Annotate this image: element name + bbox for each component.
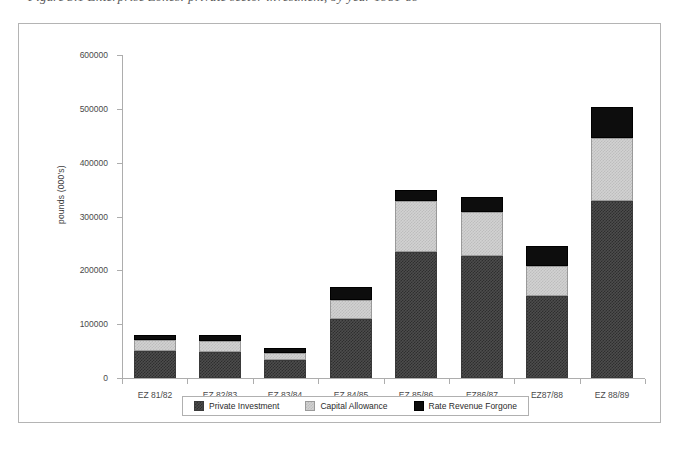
x-axis-tick	[318, 379, 319, 384]
bar-segment[interactable]	[264, 360, 306, 378]
bar-segment[interactable]	[199, 335, 241, 340]
y-axis-tick: 500000	[117, 109, 123, 110]
bar-segment[interactable]	[134, 351, 176, 378]
x-axis-tick	[253, 379, 254, 384]
plot-area: 0100000200000300000400000500000600000 EZ…	[122, 55, 645, 379]
bar-segment[interactable]	[395, 201, 437, 252]
bar-segment[interactable]	[591, 107, 633, 138]
y-axis-tick: 200000	[117, 270, 123, 271]
bar-segment[interactable]	[395, 190, 437, 201]
x-axis-tick	[580, 379, 581, 384]
figure-frame: pounds (000's) 0100000200000300000400000…	[18, 23, 661, 423]
bar-segment[interactable]	[264, 348, 306, 352]
bar-segment[interactable]	[199, 341, 241, 352]
x-axis-tick	[449, 379, 450, 384]
y-axis-tick: 400000	[117, 163, 123, 164]
legend-item[interactable]: Private Investment	[194, 401, 279, 411]
y-axis-tick-label: 300000	[80, 212, 108, 221]
legend-swatch	[194, 401, 204, 411]
y-axis-tick-label: 500000	[80, 105, 108, 114]
bar-group[interactable]	[199, 335, 241, 378]
x-axis-tick	[645, 379, 646, 384]
x-axis-tick	[122, 379, 123, 384]
y-axis-tick-label: 200000	[80, 266, 108, 275]
y-axis-tick-label: 400000	[80, 158, 108, 167]
x-axis-tick-label: EZ 88/89	[595, 391, 630, 400]
x-axis-tick-label: EZ 81/82	[138, 391, 173, 400]
x-axis-tick	[187, 379, 188, 384]
bar-segment[interactable]	[526, 246, 568, 266]
y-axis-tick-label: 0	[103, 374, 108, 383]
legend-label: Private Investment	[209, 402, 279, 411]
legend-swatch	[414, 401, 424, 411]
bar-segment[interactable]	[591, 201, 633, 378]
bar-group[interactable]	[330, 287, 372, 378]
x-axis-tick	[514, 379, 515, 384]
legend-item[interactable]: Capital Allowance	[305, 401, 387, 411]
y-axis-tick-label: 600000	[80, 51, 108, 60]
legend-swatch	[305, 401, 315, 411]
bar-segment[interactable]	[264, 353, 306, 361]
bar-group[interactable]	[526, 246, 568, 378]
y-axis-tick-label: 100000	[80, 320, 108, 329]
bar-segment[interactable]	[330, 287, 372, 300]
bar-segment[interactable]	[461, 256, 503, 378]
x-axis-tick	[384, 379, 385, 384]
bar-segment[interactable]	[395, 252, 437, 379]
figure-caption: Figure 3.1 Enterprise Zones: private sec…	[28, 0, 668, 5]
bar-group[interactable]	[134, 335, 176, 378]
x-axis-tick-label: EZ87/88	[531, 391, 563, 400]
bar-segment[interactable]	[199, 352, 241, 378]
bar-segment[interactable]	[330, 319, 372, 378]
y-axis-tick: 300000	[117, 217, 123, 218]
bar-segment[interactable]	[591, 138, 633, 202]
y-axis-tick: 600000	[117, 55, 123, 56]
y-axis-title: pounds (000's)	[56, 165, 66, 224]
bar-segment[interactable]	[134, 340, 176, 351]
bar-group[interactable]	[591, 107, 633, 378]
legend-item[interactable]: Rate Revenue Forgone	[414, 401, 517, 411]
bar-segment[interactable]	[461, 212, 503, 256]
legend-label: Capital Allowance	[320, 402, 387, 411]
figure-caption-strip: Figure 3.1 Enterprise Zones: private sec…	[0, 0, 682, 10]
bar-group[interactable]	[264, 348, 306, 378]
bar-segment[interactable]	[526, 296, 568, 378]
bar-group[interactable]	[395, 190, 437, 378]
bar-segment[interactable]	[330, 300, 372, 319]
y-axis-tick: 100000	[117, 324, 123, 325]
chart-legend: Private InvestmentCapital AllowanceRate …	[182, 396, 529, 416]
bar-segment[interactable]	[526, 266, 568, 296]
legend-label: Rate Revenue Forgone	[429, 402, 517, 411]
bar-segment[interactable]	[461, 197, 503, 212]
bar-segment[interactable]	[134, 335, 176, 339]
bar-group[interactable]	[461, 197, 503, 378]
